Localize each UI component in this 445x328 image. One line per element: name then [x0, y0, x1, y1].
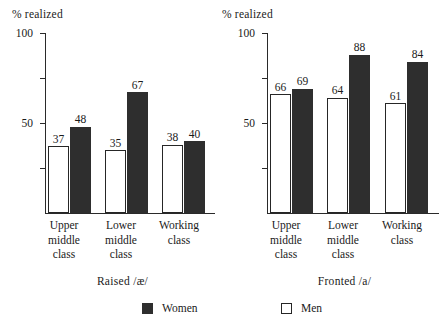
bar-value-women-lower-middle-fronted: 88 [354, 42, 366, 54]
bar-women-working-raised: 40 [184, 141, 205, 213]
x-category-label-working-right: Working class [371, 218, 433, 247]
bar-men-working-fronted: 61 [385, 103, 406, 213]
x-axis-line-left [45, 213, 215, 214]
x-category-label-lower-middle-left: Lower middle class [91, 218, 151, 262]
bar-men-upper-middle-raised: 37 [48, 146, 69, 213]
cat-line-1: Lower [91, 218, 151, 233]
cat-line-2: class [371, 233, 433, 248]
cat-line-3: class [313, 247, 373, 262]
bar-women-working-fronted: 84 [407, 62, 428, 213]
y-tick-label-50-right: 50 [244, 117, 256, 129]
x-category-label-upper-middle-right: Upper middle class [256, 218, 316, 262]
y-tick-100-left: 100 [40, 33, 46, 34]
plot-area-right: 100 50 66 69 64 88 61 [267, 33, 439, 213]
legend-label-women: Women [162, 302, 197, 314]
bar-value-men-lower-middle-raised: 35 [110, 138, 122, 150]
panel-fronted-a: % realized 100 50 66 69 64 [222, 0, 445, 300]
legend-entry-men: Men [281, 302, 322, 314]
y-tick-50-right: 50 [262, 123, 268, 124]
y-axis-title-right: % realized [222, 8, 273, 20]
x-category-label-lower-middle-right: Lower middle class [313, 218, 373, 262]
cat-line-1: Lower [313, 218, 373, 233]
figure: % realized 100 50 37 48 35 [0, 0, 445, 328]
y-tick-75-left [40, 78, 46, 79]
plot-area-left: 100 50 37 48 35 67 38 [45, 33, 215, 213]
y-tick-label-50-left: 50 [22, 117, 34, 129]
bar-value-women-working-fronted: 84 [412, 49, 424, 61]
bar-men-working-raised: 38 [162, 145, 183, 213]
cat-line-1: Upper [34, 218, 94, 233]
cat-line-3: class [91, 247, 151, 262]
bar-men-upper-middle-fronted: 66 [270, 94, 291, 213]
bar-women-lower-middle-raised: 67 [127, 92, 148, 213]
y-tick-25-left [40, 168, 46, 169]
bar-men-lower-middle-raised: 35 [105, 150, 126, 213]
bar-value-men-working-fronted: 61 [390, 91, 402, 103]
bar-women-upper-middle-fronted: 69 [292, 89, 313, 213]
legend-entry-women: Women [142, 302, 197, 314]
bar-women-upper-middle-raised: 48 [70, 127, 91, 213]
y-tick-25-right [262, 168, 268, 169]
bar-value-men-upper-middle-raised: 37 [53, 134, 65, 146]
x-category-label-working-left: Working class [148, 218, 210, 247]
bar-value-men-lower-middle-fronted: 64 [332, 85, 344, 97]
x-category-label-upper-middle-left: Upper middle class [34, 218, 94, 262]
cat-line-2: middle [256, 233, 316, 248]
cat-line-2: middle [91, 233, 151, 248]
legend-swatch-women-icon [142, 303, 153, 314]
bar-men-lower-middle-fronted: 64 [327, 98, 348, 213]
panel-caption-raised: Raised /æ/ [35, 275, 210, 287]
y-axis-title-left: % realized [12, 8, 63, 20]
y-tick-100-right: 100 [262, 33, 268, 34]
bar-value-women-upper-middle-fronted: 69 [297, 76, 309, 88]
bar-value-women-upper-middle-raised: 48 [75, 114, 87, 126]
cat-line-2: class [148, 233, 210, 248]
legend-swatch-men-icon [281, 303, 292, 314]
legend-label-men: Men [301, 302, 322, 314]
cat-line-2: middle [313, 233, 373, 248]
x-axis-line-right [267, 213, 439, 214]
y-tick-50-left: 50 [40, 123, 46, 124]
panel-raised-ae: % realized 100 50 37 48 35 [0, 0, 222, 300]
y-tick-label-100-left: 100 [16, 27, 33, 39]
cat-line-1: Working [148, 218, 210, 233]
cat-line-2: middle [34, 233, 94, 248]
cat-line-1: Upper [256, 218, 316, 233]
bar-value-women-working-raised: 40 [189, 129, 201, 141]
bar-value-women-lower-middle-raised: 67 [132, 80, 144, 92]
cat-line-3: class [256, 247, 316, 262]
cat-line-3: class [34, 247, 94, 262]
y-tick-75-right [262, 78, 268, 79]
bar-value-men-working-raised: 38 [167, 132, 179, 144]
y-tick-label-100-right: 100 [238, 27, 255, 39]
bar-women-lower-middle-fronted: 88 [349, 55, 370, 213]
panel-caption-fronted: Fronted /a/ [257, 275, 432, 287]
cat-line-1: Working [371, 218, 433, 233]
bar-value-men-upper-middle-fronted: 66 [275, 82, 287, 94]
legend: Women Men [0, 300, 445, 328]
